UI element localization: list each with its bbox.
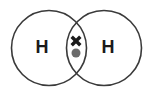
dot-electron-icon (72, 49, 81, 58)
dot-and-cross-diagram: H H (0, 0, 153, 96)
atom-label-left: H (36, 37, 49, 57)
diagram-background (0, 0, 153, 96)
diagram-canvas: H H (0, 0, 153, 96)
atom-label-right: H (102, 37, 115, 57)
